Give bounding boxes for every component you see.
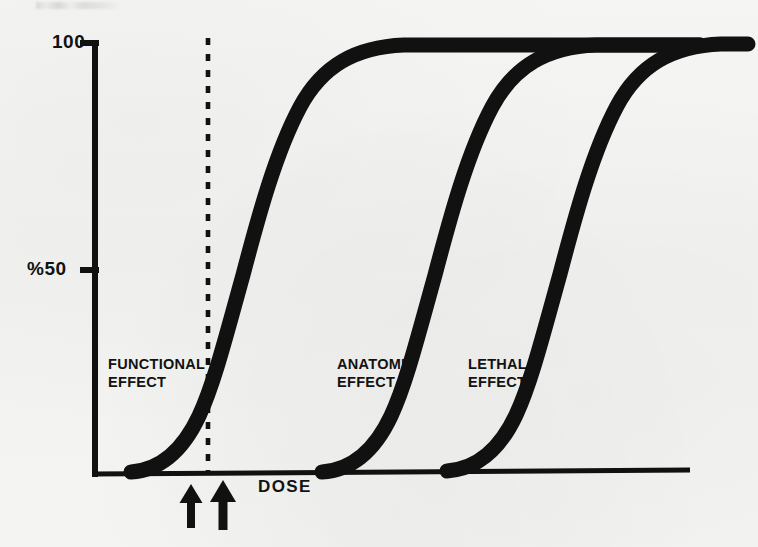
figure-canvas: 100 %50 DOSE FUNCTIONAL EFFECT ANATOMIC … [0, 0, 758, 547]
curve-label-lethal-line1: LETHAL [468, 356, 527, 372]
x-axis-title: DOSE [258, 477, 312, 496]
dose-response-plot [0, 0, 758, 547]
y-axis-label-100: 100 [52, 31, 85, 52]
curve-label-anatomic-line1: ANATOMIC [337, 356, 416, 372]
curve-label-functional-line1: FUNCTIONAL [108, 356, 205, 372]
dose-arrow-right [210, 480, 236, 530]
curves-group [131, 44, 748, 472]
dose-arrow-left [180, 484, 203, 528]
curve-label-lethal-line2: EFFECT [468, 374, 526, 390]
x-axis-line [92, 470, 690, 474]
curve-label-anatomic-line2: EFFECT [337, 374, 395, 390]
y-axis-label-50: %50 [27, 258, 67, 279]
curve-label-functional-line2: EFFECT [108, 374, 166, 390]
dose-arrows-group [180, 480, 237, 530]
